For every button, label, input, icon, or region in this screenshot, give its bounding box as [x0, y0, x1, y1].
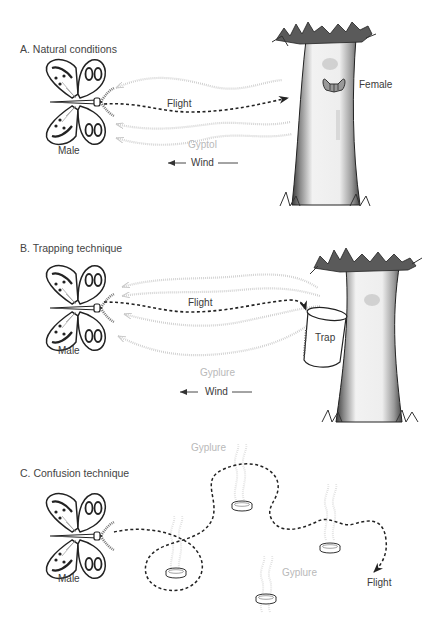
panel-a-title: A. Natural conditions — [20, 44, 117, 55]
pheromone-label-top: Gyplure — [191, 443, 226, 453]
panel-b — [46, 248, 422, 422]
dispenser-dish-icon — [320, 543, 340, 553]
panel-c-title: C. Confusion technique — [20, 468, 129, 479]
dispenser-dish-icon — [232, 501, 252, 511]
flight-label: Flight — [367, 578, 391, 588]
butterfly-male-icon — [46, 266, 114, 351]
flight-label: Flight — [167, 99, 191, 109]
butterfly-male-icon — [46, 60, 114, 145]
wind-label: Wind — [205, 387, 228, 397]
wind-label: Wind — [191, 158, 214, 168]
male-label: Male — [58, 346, 80, 356]
diagram-canvas — [0, 0, 441, 617]
pheromone-plumes — [171, 444, 336, 612]
pheromone-plume-arrows — [118, 275, 320, 356]
dispenser-dish-icon — [166, 568, 186, 578]
dispenser-dish-icon — [256, 594, 276, 604]
pheromone-label-bottom: Gyplure — [282, 568, 317, 578]
pheromone-label: Gyplure — [200, 368, 235, 378]
meandering-flight-path — [114, 464, 386, 591]
flight-label: Flight — [188, 298, 212, 308]
panel-b-title: B. Trapping technique — [20, 243, 122, 254]
male-label: Male — [58, 146, 80, 156]
pheromone-label: Gyptol — [188, 140, 217, 150]
trap-label: Trap — [315, 333, 335, 343]
female-label: Female — [359, 80, 392, 90]
male-label: Male — [58, 574, 80, 584]
tree-icon — [272, 22, 376, 206]
flight-arrow — [104, 98, 288, 112]
butterfly-male-icon — [46, 494, 114, 579]
